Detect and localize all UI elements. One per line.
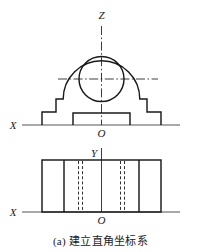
figure-caption: (a)建立直角坐标系 xyxy=(0,232,201,248)
front-view-z-label: Z xyxy=(98,9,105,21)
top-view-group: X Y O xyxy=(9,147,180,226)
front-view-origin-label: O xyxy=(98,127,106,139)
engineering-drawing: X Z O X Y O xyxy=(0,0,201,252)
front-view-x-label: X xyxy=(9,119,18,131)
figure-container: X Z O X Y O (a)建立直 xyxy=(0,0,201,252)
top-view-x-label: X xyxy=(9,206,18,218)
top-view-origin-label: O xyxy=(98,214,106,226)
caption-text: 建立直角坐标系 xyxy=(69,235,148,247)
front-view-group: X Z O xyxy=(9,9,180,139)
caption-index: (a) xyxy=(53,235,66,247)
top-view-y-label: Y xyxy=(91,147,99,159)
